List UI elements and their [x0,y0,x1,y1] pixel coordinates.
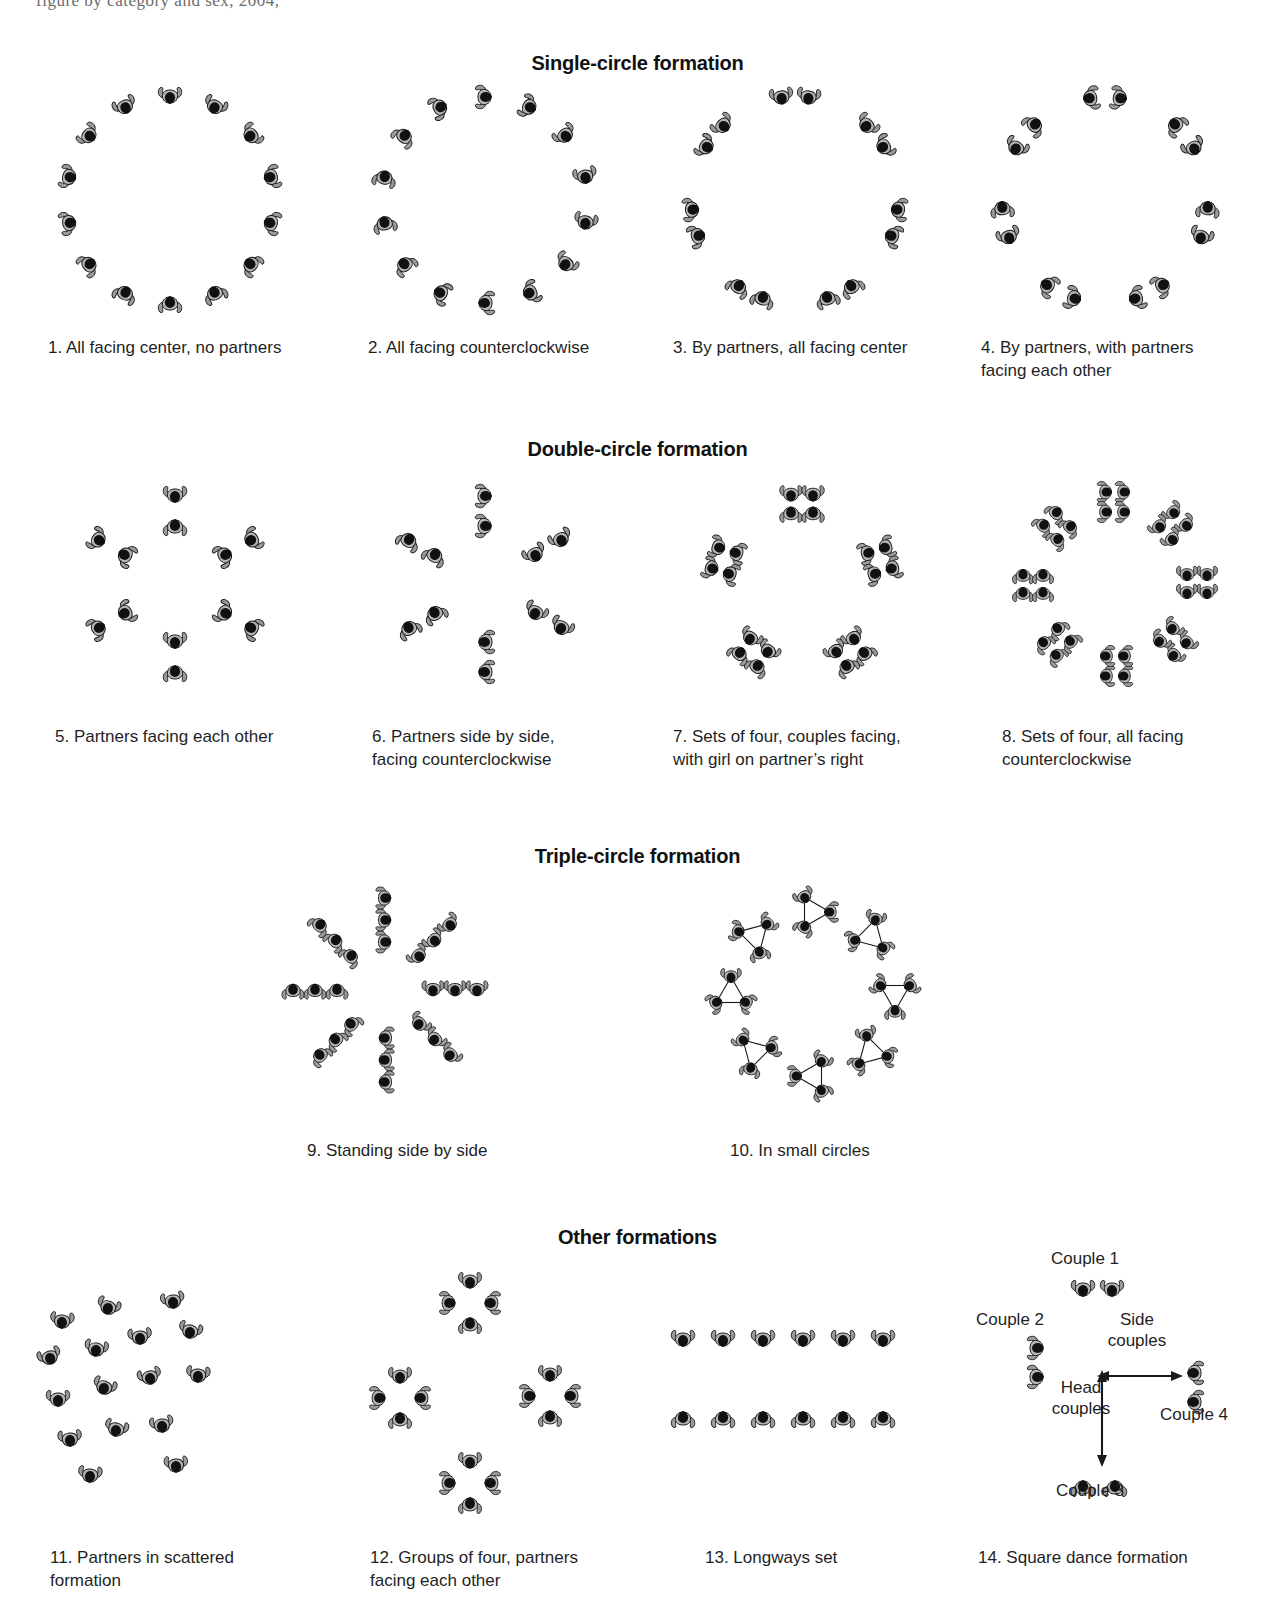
dancer-icon [427,94,452,122]
dancer-icon [1062,284,1085,311]
square-label-couple-2: Couple 2 [955,1309,1065,1330]
dancer-icon [1097,481,1112,502]
dancer-icon [885,1005,906,1019]
dancer-icon [1188,224,1216,248]
figure-3-caption: 3. By partners, all facing center [673,336,943,359]
dancer-icon [376,931,391,953]
figure-13-diagram [655,1300,915,1480]
dancer-icon [1176,584,1197,599]
dancer-icon [95,1295,123,1318]
dancer-icon [422,981,444,996]
dancer-icon [763,1035,782,1059]
dancer-icon [863,561,885,587]
dancer-icon [796,87,821,106]
dancer-icon [802,486,825,502]
dancer-group-13 [671,1330,894,1427]
figure-5-diagram [40,474,330,704]
dancer-icon [995,224,1023,248]
figure-13-caption: 13. Longways set [705,1546,935,1569]
dancer-group-11 [36,1290,211,1483]
dancer-icon [475,514,491,537]
figure-1-diagram [40,82,330,322]
dancer-icon [1196,584,1217,599]
dancer-icon [787,1066,801,1087]
figure-7-caption: 7. Sets of four, couples facing, with gi… [673,725,953,771]
dancer-group-1 [58,87,283,312]
dancer-icon [711,1411,734,1427]
dancer-icon [723,274,752,301]
dancer-icon [371,168,398,189]
dancer-icon [389,1412,412,1428]
dancer-icon [1100,665,1115,686]
figure-5-caption: 5. Partners facing each other [55,725,325,748]
dancer-icon [791,1330,814,1346]
dancer-icon [238,251,265,280]
dancer-icon [158,296,181,312]
dancer-icon [484,1292,500,1315]
dancer-icon [871,1330,894,1346]
dancer-icon [1176,566,1197,581]
dancer-icon [707,534,729,560]
figure-14-caption: 14. Square dance formation [978,1546,1258,1569]
dancer-icon [692,132,718,161]
dancer-icon [1020,111,1048,139]
section-heading-single-circle: Single-circle formation [0,52,1275,75]
dancer-icon [856,540,878,566]
dancer-icon [113,541,139,570]
figure-4-svg [975,82,1265,322]
figure-8-caption: 8. Sets of four, all facing counterclock… [1002,725,1252,771]
dancer-icon [802,506,825,522]
dancer-icon [1118,645,1133,666]
dancer-icon [516,92,541,120]
dancer-icon [46,1390,69,1406]
dancer-icon [899,972,922,997]
dancer-icon [1187,1361,1203,1384]
dancer-icon [1115,481,1130,502]
dancer-icon [824,902,838,923]
figure-7-diagram [660,474,950,704]
dancer-icon [83,1338,109,1358]
figure-12-caption: 12. Groups of four, partners facing each… [370,1546,620,1592]
dancer-icon [1195,200,1220,218]
dancer-icon [103,1418,130,1440]
figure-1-caption: 1. All facing center, no partners [48,336,308,359]
dancer-icon [868,972,891,997]
dancer-group-6 [394,484,576,683]
dancer-icon [1109,85,1129,111]
dancer-icon [671,1411,694,1427]
dancer-icon [136,1366,163,1388]
dancer-group-8 [1012,481,1217,686]
dancer-icon [520,541,549,567]
dancer-icon [548,614,577,640]
dancer-icon [57,1429,82,1447]
dancer-icon [50,1311,75,1329]
dancer-icon [459,1317,482,1333]
dancer-icon [791,1411,814,1427]
dancer-icon [389,1368,412,1384]
dancer-icon [304,984,326,999]
dancer-icon [751,1411,774,1427]
dancer-icon [704,991,727,1016]
figure-8-svg [965,466,1265,706]
dancer-icon [164,1456,188,1473]
figure-10-caption: 10. In small circles [730,1139,970,1162]
figure-11-diagram [30,1280,280,1510]
dancer-icon [163,632,186,648]
dancer-icon [421,601,450,627]
dancer-icon [756,911,781,936]
dancer-icon [201,282,229,307]
dancer-icon [282,984,304,999]
dancer-icon [1027,1336,1043,1359]
dancer-icon [1032,587,1053,602]
section-heading-double-circle: Double-circle formation [0,438,1275,461]
dancer-icon [370,1387,386,1410]
figure-8-diagram [965,466,1265,706]
dancer-icon [700,555,722,581]
dancer-icon [395,616,424,642]
dancer-icon [518,278,543,306]
cropped-top-text: figure by category and sex, 2004, [36,0,280,11]
figure-1-svg [40,82,330,322]
dancer-icon [163,665,186,681]
dancer-icon [791,885,816,908]
dancer-icon [721,968,742,982]
